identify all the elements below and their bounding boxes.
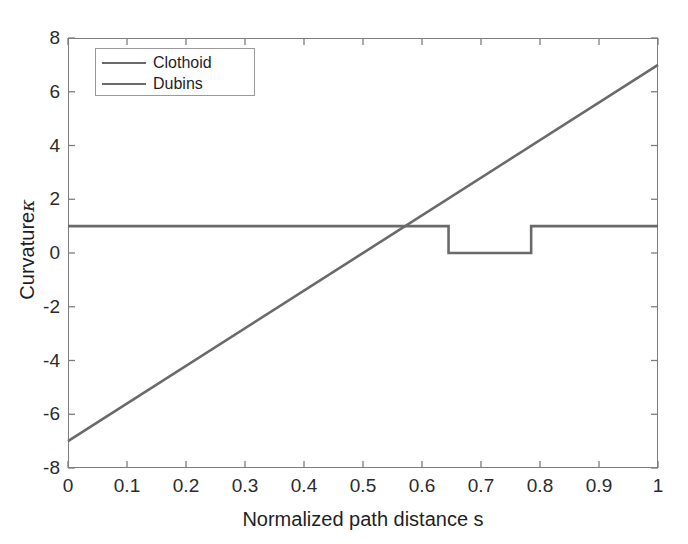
x-tick-label: 0.8 xyxy=(527,476,553,495)
y-tick-label: 8 xyxy=(49,28,60,47)
x-tick-label: 0.4 xyxy=(291,476,317,495)
y-tick-label: 4 xyxy=(49,136,60,155)
y-tick-label: -6 xyxy=(43,404,60,423)
figure-canvas: -8-6-4-202468 00.10.20.30.40.50.60.70.80… xyxy=(0,0,688,544)
y-tick-label: -4 xyxy=(43,351,60,370)
x-tick-label: 0 xyxy=(63,476,74,495)
x-tick-label: 1 xyxy=(653,476,664,495)
y-tick-label: -8 xyxy=(43,458,60,477)
y-tick-label: 0 xyxy=(49,243,60,262)
legend-line-swatch xyxy=(102,62,146,64)
y-axis-label: Curvatureκ xyxy=(16,135,39,365)
x-tick-label: 0.3 xyxy=(232,476,258,495)
x-tick-label: 0.5 xyxy=(350,476,376,495)
x-tick-label-group: 00.10.20.30.40.50.60.70.80.91 xyxy=(0,476,688,502)
data-series-layer xyxy=(68,65,658,441)
legend-entry: Clothoid xyxy=(102,53,248,73)
chart-legend: ClothoidDubins xyxy=(95,48,255,96)
y-axis-label-text: Curvature xyxy=(16,212,38,300)
x-tick-label: 0.1 xyxy=(114,476,140,495)
x-tick-label: 0.9 xyxy=(586,476,612,495)
y-tick-label: -2 xyxy=(43,297,60,316)
series-line-dubins xyxy=(68,226,658,253)
legend-label: Clothoid xyxy=(153,55,212,71)
kappa-symbol: κ xyxy=(16,199,38,211)
y-tick-label: 2 xyxy=(49,189,60,208)
x-axis-label: Normalized path distance s xyxy=(68,508,658,531)
y-tick-label: 6 xyxy=(49,82,60,101)
x-tick-label: 0.6 xyxy=(409,476,435,495)
x-tick-label: 0.7 xyxy=(468,476,494,495)
series-line-clothoid xyxy=(68,65,658,441)
legend-label: Dubins xyxy=(153,76,203,92)
x-tick-label: 0.2 xyxy=(173,476,199,495)
legend-entry: Dubins xyxy=(102,74,248,94)
plot-area xyxy=(68,38,658,468)
legend-line-swatch xyxy=(102,83,146,85)
